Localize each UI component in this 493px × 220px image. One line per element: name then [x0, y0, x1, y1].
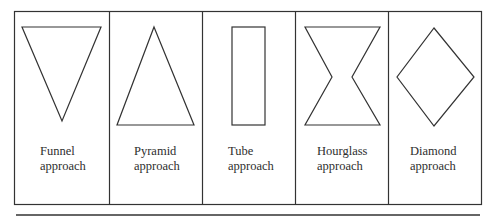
diamond-label-line2: approach: [410, 159, 457, 174]
tube-label-line2: approach: [228, 159, 274, 174]
approaches-diagram: [0, 0, 493, 220]
diamond-label: Diamond approach: [410, 144, 457, 174]
funnel-label: Funnel approach: [40, 144, 86, 174]
outer-frame: [15, 12, 482, 205]
diamond-shape-icon: [397, 28, 474, 126]
diamond-label-line1: Diamond: [410, 144, 457, 159]
tube-label: Tube approach: [228, 144, 274, 174]
tube-shape-icon: [232, 27, 265, 125]
hourglass-label-line1: Hourglass: [317, 144, 367, 159]
pyramid-label-line1: Pyramid: [134, 144, 180, 159]
funnel-label-line2: approach: [40, 159, 86, 174]
funnel-shape-icon: [22, 27, 101, 121]
tube-label-line1: Tube: [228, 144, 274, 159]
pyramid-label-line2: approach: [134, 159, 180, 174]
hourglass-shape-icon: [305, 27, 380, 125]
hourglass-label: Hourglass approach: [317, 144, 367, 174]
funnel-label-line1: Funnel: [40, 144, 86, 159]
pyramid-label: Pyramid approach: [134, 144, 180, 174]
hourglass-label-line2: approach: [317, 159, 367, 174]
pyramid-shape-icon: [117, 27, 194, 125]
